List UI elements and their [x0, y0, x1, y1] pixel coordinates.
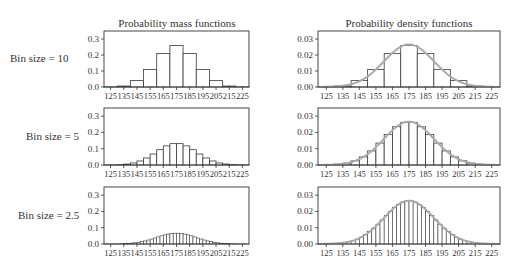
- histogram-bar: [417, 127, 425, 165]
- column-title-pdf: Probability density functions: [345, 17, 472, 29]
- x-tick-label: 215: [223, 169, 236, 179]
- x-tick-label: 205: [452, 169, 465, 179]
- histogram-bar: [401, 122, 409, 165]
- y-tick-label: 0.00: [297, 239, 313, 249]
- pdf-panel-bin-2-5: 0.000.010.020.03125135145155165175185195…: [297, 187, 500, 258]
- histogram-bar: [144, 158, 151, 165]
- histogram-bar: [384, 216, 388, 244]
- x-tick-label: 175: [403, 169, 416, 179]
- y-tick-label: 0.1: [88, 144, 99, 154]
- histogram-bar: [368, 69, 385, 87]
- histogram-bar: [183, 146, 190, 165]
- x-tick-label: 175: [170, 91, 183, 101]
- x-tick-label: 175: [403, 248, 416, 258]
- pdf-panel-bin-10: 0.000.010.020.03125135145155165175185195…: [297, 31, 500, 101]
- x-tick-label: 135: [336, 248, 349, 258]
- histogram-bar: [426, 134, 434, 165]
- histogram-bar: [160, 236, 163, 244]
- x-tick-label: 175: [170, 169, 183, 179]
- x-tick-label: 145: [131, 91, 144, 101]
- histogram-bar: [144, 69, 157, 87]
- x-tick-label: 225: [236, 248, 249, 258]
- histogram-bar: [196, 69, 209, 87]
- histogram-bar: [430, 216, 434, 244]
- x-tick-label: 185: [419, 248, 432, 258]
- y-tick-label: 0.2: [88, 127, 99, 137]
- histogram-bar: [209, 161, 216, 165]
- x-tick-label: 225: [236, 169, 249, 179]
- x-tick-label: 125: [104, 169, 117, 179]
- x-tick-label: 225: [485, 91, 498, 101]
- histogram-bar: [153, 238, 156, 244]
- x-tick-label: 195: [436, 91, 449, 101]
- histogram-bar: [196, 238, 199, 244]
- row-label-bin-5: Bin size = 5: [26, 130, 79, 142]
- histogram-bar: [434, 220, 438, 244]
- histogram-bar: [177, 233, 180, 244]
- histogram-bar: [190, 236, 193, 244]
- y-tick-label: 0.01: [297, 66, 313, 76]
- y-tick-label: 0.1: [88, 223, 99, 233]
- x-tick-label: 195: [196, 169, 209, 179]
- histogram-bars: [104, 233, 249, 244]
- x-tick-label: 125: [320, 169, 333, 179]
- histogram-bar: [397, 204, 401, 244]
- histogram-bar: [401, 45, 418, 87]
- x-tick-label: 145: [131, 169, 144, 179]
- y-tick-label: 0.03: [297, 111, 313, 121]
- histogram-bar: [203, 240, 206, 244]
- x-tick-label: 135: [336, 91, 349, 101]
- x-tick-label: 125: [320, 248, 333, 258]
- histogram-bar: [137, 161, 144, 165]
- histogram-bar: [203, 158, 210, 165]
- x-tick-label: 225: [236, 91, 249, 101]
- x-tick-label: 215: [223, 91, 236, 101]
- histogram-bar: [392, 207, 396, 244]
- histogram-bar: [384, 134, 392, 165]
- histogram-bar: [147, 240, 150, 244]
- histogram-bar: [163, 235, 166, 244]
- pmf-panel-bin-10: 0.00.10.20.31251351451551651751851952052…: [88, 31, 249, 101]
- histogram-bar: [190, 150, 197, 165]
- y-tick-label: 0.0: [88, 82, 100, 92]
- x-tick-label: 225: [485, 169, 498, 179]
- histogram-bar: [196, 154, 203, 165]
- x-tick-label: 185: [183, 169, 196, 179]
- histogram-bar: [388, 211, 392, 244]
- x-tick-label: 215: [223, 248, 236, 258]
- x-tick-label: 155: [144, 91, 157, 101]
- x-tick-label: 155: [144, 169, 157, 179]
- x-tick-label: 195: [196, 91, 209, 101]
- histogram-bar: [170, 234, 173, 244]
- histogram-bar: [150, 154, 157, 165]
- histogram-bars: [318, 45, 500, 87]
- histogram-bars: [318, 201, 500, 244]
- x-tick-label: 175: [403, 91, 416, 101]
- y-tick-label: 0.3: [88, 34, 100, 44]
- histogram-bar: [130, 81, 143, 87]
- histogram-bar: [200, 239, 203, 244]
- histogram-bar: [150, 239, 153, 244]
- histogram-bars: [318, 122, 500, 165]
- histogram-bar: [157, 150, 164, 165]
- histogram-bar: [434, 69, 451, 87]
- x-tick-label: 155: [370, 248, 383, 258]
- x-tick-label: 195: [436, 248, 449, 258]
- histogram-bar: [438, 224, 442, 244]
- x-tick-label: 125: [320, 91, 333, 101]
- x-tick-label: 145: [353, 169, 366, 179]
- y-tick-label: 0.03: [297, 190, 313, 200]
- histogram-bars: [104, 45, 249, 87]
- histogram-bar: [409, 201, 413, 244]
- histogram-bar: [170, 45, 183, 87]
- x-tick-label: 145: [353, 248, 366, 258]
- pmf-panel-bin-2-5: 0.00.10.20.31251351451551651751851952052…: [88, 187, 249, 258]
- x-tick-label: 125: [104, 91, 117, 101]
- y-tick-label: 0.02: [297, 50, 313, 60]
- x-tick-label: 165: [386, 91, 399, 101]
- x-tick-label: 155: [370, 169, 383, 179]
- histogram-bar: [413, 202, 417, 244]
- y-tick-label: 0.3: [88, 190, 100, 200]
- histogram-bar: [405, 201, 409, 244]
- x-tick-label: 215: [469, 169, 482, 179]
